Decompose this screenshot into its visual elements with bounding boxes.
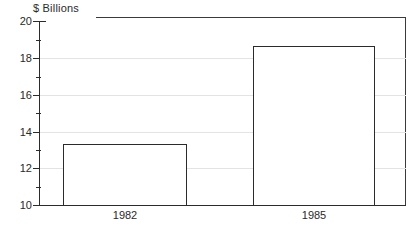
y-tick-20 — [33, 21, 40, 22]
y-axis-top-cap — [39, 21, 46, 22]
y-tick-14 — [33, 132, 40, 133]
y-tick-label-12: 12 — [20, 163, 32, 174]
plot-frame-top — [96, 17, 406, 18]
y-tick-16 — [33, 95, 40, 96]
y-tick-minor-17 — [36, 77, 41, 78]
y-tick-label-18: 18 — [20, 53, 32, 64]
x-axis-line — [39, 205, 406, 206]
y-tick-12 — [33, 168, 40, 169]
bar-1982[interactable] — [63, 144, 187, 206]
bar-1985[interactable] — [253, 46, 375, 206]
y-tick-minor-19 — [36, 40, 41, 41]
plot-frame-right — [405, 17, 406, 206]
y-tick-minor-15 — [36, 113, 41, 114]
x-axis-label-1985: 1985 — [302, 209, 326, 221]
y-tick-18 — [33, 58, 40, 59]
bar-chart-figure: $ Billions 20 18 16 14 12 10 1982 1985 — [0, 0, 415, 230]
x-axis-label-1982: 1982 — [113, 209, 137, 221]
y-tick-label-14: 14 — [20, 127, 32, 138]
y-tick-minor-11 — [36, 187, 41, 188]
y-tick-minor-13 — [36, 150, 41, 151]
y-tick-10 — [33, 205, 40, 206]
y-tick-label-10: 10 — [20, 200, 32, 211]
y-tick-label-20: 20 — [20, 16, 32, 27]
y-tick-label-16: 16 — [20, 90, 32, 101]
y-axis-title: $ Billions — [33, 2, 79, 14]
